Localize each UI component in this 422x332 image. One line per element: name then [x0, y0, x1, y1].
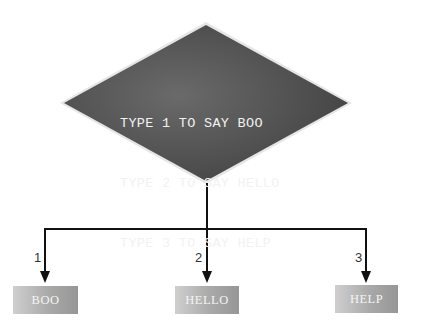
- decision-line-2: TYPE 2 TO SAY HELLO: [120, 174, 280, 194]
- output-box-help: HELP: [335, 285, 398, 313]
- output-box-hello: HELLO: [175, 286, 239, 314]
- arrow-down-icon: [361, 271, 371, 283]
- decision-line-1: TYPE 1 TO SAY BOO: [120, 114, 280, 134]
- branch-label-2: 2: [195, 250, 202, 265]
- branch-label-3: 3: [355, 250, 362, 265]
- decision-text: TYPE 1 TO SAY BOO TYPE 2 TO SAY HELLO TY…: [120, 74, 280, 274]
- output-box-boo: BOO: [13, 286, 78, 314]
- branch-label-1: 1: [34, 250, 41, 265]
- arrow-down-icon: [40, 271, 50, 283]
